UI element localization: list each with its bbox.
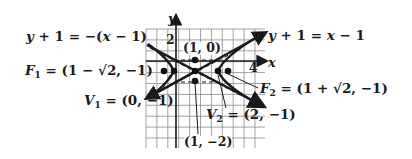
point-v2 xyxy=(215,68,222,75)
point-center-bottom xyxy=(192,78,199,85)
x-axis-label: x xyxy=(268,56,276,69)
asymptote-negative-label: y + 1 = −(x − 1) xyxy=(26,30,147,44)
point-center xyxy=(192,68,199,75)
point-f2 xyxy=(225,68,232,75)
y-tick-2: 2 xyxy=(166,34,175,47)
asymptote-positive-label: y + 1 = x − 1 xyxy=(268,29,365,43)
vertex-2-label: V2 = (2, −1) xyxy=(206,108,296,124)
focus-1-label: F1 = (1 − √2, −1) xyxy=(25,64,153,80)
x-tick-4: 4 xyxy=(249,62,258,75)
y-axis-label: y xyxy=(168,12,176,25)
point-v1 xyxy=(171,68,178,75)
vertex-1-label: V1 = (0, −1) xyxy=(84,94,174,110)
focus-2-label: F2 = (1 + √2, −1) xyxy=(260,82,388,98)
point-bottom-label: (1, −2) xyxy=(184,136,232,149)
point-f1 xyxy=(161,68,168,75)
point-top-label: (1, 0) xyxy=(183,42,221,55)
hyperbola-diagram: y + 1 = −(x − 1) y + 1 = x − 1 F1 = (1 −… xyxy=(0,0,412,159)
point-center-top xyxy=(192,57,199,64)
